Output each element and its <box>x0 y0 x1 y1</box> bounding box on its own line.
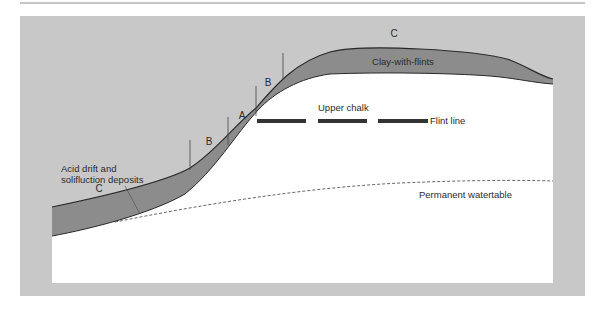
clay-with-flints-label: Clay-with-flints <box>372 56 434 67</box>
acid-drift-label-line1: Acid drift and <box>61 163 116 174</box>
zone-c-top-label: C <box>390 28 397 39</box>
flint-dash <box>257 119 306 123</box>
zone-a-label: A <box>239 110 246 121</box>
flint-dash <box>318 119 367 123</box>
zone-b-lower-label: B <box>206 136 213 147</box>
upper-chalk-label: Upper chalk <box>318 102 369 113</box>
watertable-label: Permanent watertable <box>419 189 512 200</box>
flint-dash <box>378 119 428 123</box>
zone-c-bottom-label: C <box>95 183 102 194</box>
zone-b-upper-label: B <box>265 77 272 88</box>
flint-line-label: Flint line <box>430 115 465 126</box>
cross-section-diagram: C Clay-with-flints B A B Upper chalk Fli… <box>0 0 606 310</box>
